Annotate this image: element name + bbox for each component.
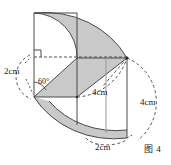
right-angle-mark [34,50,41,57]
vertex-center-junction [76,96,78,98]
bottom-right-connector [127,134,134,138]
label-bottom-arc-radius: 2cm [95,143,111,152]
label-angle-60: 60° [38,78,49,86]
left-radius-leader [25,57,31,63]
vertex-right-apex [125,56,128,59]
label-left-radius: 2cm [4,67,20,76]
geometry-diagram [0,0,171,165]
figure-caption: 图 4 [144,145,161,154]
left-radius-leader-lower [26,79,33,94]
label-right-arc-radius: 4cm [140,98,156,107]
lower-crescent-shading [34,97,127,139]
figure-canvas: 2cm 60° 4cm 4cm 2cm 图 4 [0,0,171,165]
left-radius-dashed-arc [16,55,31,99]
label-inner-arc-radius: 4cm [92,88,108,97]
